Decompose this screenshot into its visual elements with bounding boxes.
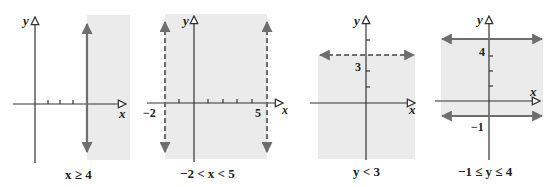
caption: −2 < x < 5 bbox=[180, 166, 235, 181]
shaded-region bbox=[165, 14, 267, 159]
y-axis-label: y bbox=[21, 13, 29, 28]
panel-y-between-neg1-and-4: y x 4 −1 −1 ≤ y ≤ 4 bbox=[435, 12, 543, 179]
caption: y < 3 bbox=[353, 164, 380, 179]
y-axis-label: y bbox=[475, 12, 483, 27]
panel-y-lt-3: y x x 3 y < 3 bbox=[281, 13, 416, 179]
panel-x-ge-4: y x x ≥ 4 bbox=[13, 13, 130, 182]
tick-label-neg2: −2 bbox=[143, 106, 156, 120]
x-axis-label: x bbox=[118, 106, 126, 121]
y-axis-label: y bbox=[352, 13, 360, 28]
shaded-region bbox=[441, 39, 543, 116]
y-axis-label: y bbox=[181, 13, 189, 28]
tick-label-3: 3 bbox=[355, 60, 361, 74]
x-axis-label: x bbox=[408, 102, 416, 117]
inequality-graphs-figure: y x x ≥ 4 y −2 5 −2 < x < 5 y bbox=[0, 0, 554, 187]
caption: x ≥ 4 bbox=[65, 167, 92, 182]
panel-x-between-neg2-and-5: y −2 5 −2 < x < 5 bbox=[143, 13, 283, 181]
x-axis-label: x bbox=[529, 84, 537, 99]
tick-label-5: 5 bbox=[255, 106, 261, 120]
tick-label-neg1: −1 bbox=[471, 120, 484, 134]
tick-label-4: 4 bbox=[479, 45, 485, 59]
caption: −1 ≤ y ≤ 4 bbox=[458, 164, 513, 179]
x-axis-label-left: x bbox=[281, 103, 288, 117]
shaded-region bbox=[87, 15, 130, 160]
